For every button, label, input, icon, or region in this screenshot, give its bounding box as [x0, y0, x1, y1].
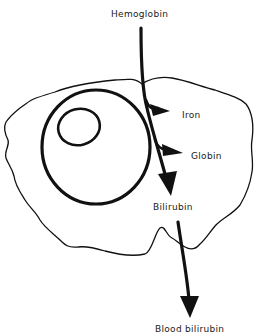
- label-blood-bilirubin: Blood bilirubin: [155, 325, 224, 334]
- bilirubin-arrowhead-icon: [158, 171, 177, 196]
- bilirubin-to-blood-arrow: [178, 222, 189, 300]
- label-iron: Iron: [182, 111, 201, 120]
- label-globin: Globin: [191, 152, 222, 161]
- label-bilirubin: Bilirubin: [153, 203, 193, 212]
- iron-arrowhead-icon: [150, 104, 170, 116]
- cell-membrane: [5, 77, 253, 255]
- hemoglobin-breakdown-diagram: Hemoglobin Iron Globin Bilirubin Blood b…: [0, 0, 263, 335]
- globin-arrowhead-icon: [162, 144, 183, 156]
- blood-bilirubin-arrowhead-icon: [180, 296, 199, 318]
- diagram-canvas: [0, 0, 263, 335]
- nucleus: [42, 90, 150, 204]
- nucleolus: [54, 104, 104, 150]
- label-hemoglobin: Hemoglobin: [111, 10, 168, 19]
